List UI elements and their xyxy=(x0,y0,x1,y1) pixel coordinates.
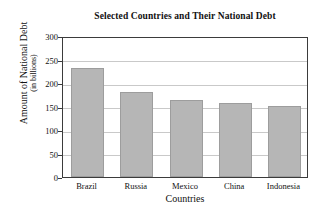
plot-area xyxy=(62,37,308,178)
chart-title: Selected Countries and Their National De… xyxy=(60,11,310,21)
bar xyxy=(268,106,301,177)
bar xyxy=(219,103,252,177)
y-axis-tick-mark xyxy=(58,178,62,179)
bar xyxy=(120,92,153,177)
x-axis-tick-label: Brazil xyxy=(76,181,97,191)
bar xyxy=(71,68,104,177)
y-axis-tick-label: 150 xyxy=(28,103,58,113)
y-axis-tick-label: 0 xyxy=(28,173,58,183)
gridline xyxy=(63,61,307,62)
x-axis-tick-label: Mexico xyxy=(172,181,198,191)
y-axis-tick-label: 100 xyxy=(28,126,58,136)
bar-chart-figure: Selected Countries and Their National De… xyxy=(0,0,330,219)
x-axis-tick-label: China xyxy=(224,181,244,191)
y-axis-tick-label: 300 xyxy=(28,32,58,42)
y-axis-tick-label: 200 xyxy=(28,79,58,89)
x-axis-label: Countries xyxy=(62,193,308,204)
bar xyxy=(170,100,203,177)
x-axis-tick-label: Russia xyxy=(124,181,147,191)
y-axis-tick-label: 50 xyxy=(28,150,58,160)
y-axis-tick-label: 250 xyxy=(28,56,58,66)
x-axis-tick-label: Indonesia xyxy=(267,181,300,191)
